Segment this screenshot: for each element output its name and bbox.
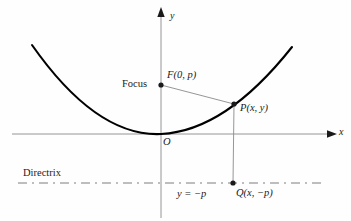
parabola-curve	[32, 45, 292, 134]
point-q-dot	[230, 180, 235, 185]
x-axis-label: x	[339, 127, 343, 137]
figure-canvas	[0, 0, 351, 221]
segment-p-to-q	[233, 104, 234, 183]
point-q-label: Q(x, −p)	[236, 188, 273, 199]
directrix-equation-label: y = −p	[177, 189, 206, 200]
focus-point-label: F(0, p)	[167, 70, 196, 81]
point-p-label: P(x, y)	[240, 103, 268, 114]
x-axis-arrowhead	[327, 130, 337, 138]
directrix-word-label: Directrix	[23, 168, 61, 179]
origin-label: O	[163, 137, 171, 148]
parabola-figure: y x O Focus F(0, p) P(x, y) Q(x, −p) Dir…	[0, 0, 351, 221]
y-axis-arrowhead	[157, 7, 164, 17]
focus-word-label: Focus	[122, 79, 147, 90]
segment-focus-to-p	[161, 85, 234, 104]
y-axis-label: y	[170, 11, 174, 21]
point-p-dot	[231, 101, 236, 106]
focus-point-dot	[158, 82, 163, 87]
